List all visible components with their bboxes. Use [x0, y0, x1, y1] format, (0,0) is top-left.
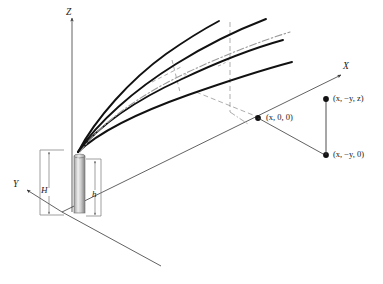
point-label-x00: (x, 0, 0)	[266, 113, 293, 122]
x-axis-line	[62, 75, 341, 212]
x-axis-label: X	[343, 62, 349, 72]
dash-drop-to-x00	[196, 92, 258, 117]
rod-top-cap	[74, 154, 85, 158]
connector-x00-to-xny0	[258, 118, 325, 155]
dash-dot-center-axis	[80, 32, 290, 152]
axis-group	[27, 18, 341, 266]
ground-plane-extension	[62, 212, 161, 266]
bracket-h	[86, 159, 101, 216]
point-markers	[255, 96, 329, 158]
y-axis-label: Y	[13, 180, 18, 190]
ray-3	[78, 40, 283, 152]
dimension-brackets	[40, 150, 101, 216]
figure-root: Z X Y H h (x, 0, 0) (x, −y, z) (x, −y, 0…	[0, 0, 383, 284]
dimension-label-h: h	[92, 190, 97, 199]
antenna-rod	[74, 154, 85, 213]
dashed-construction	[152, 22, 258, 124]
point-xnyz-dot	[323, 96, 329, 102]
rod-body	[74, 156, 85, 213]
ray-1	[78, 21, 219, 152]
diagram-canvas	[0, 0, 383, 284]
point-label-xnyz: (x, −y, z)	[333, 94, 364, 103]
z-axis-label: Z	[66, 8, 71, 18]
point-label-xny0: (x, −y, 0)	[333, 150, 364, 159]
radiated-ray-fan	[78, 19, 292, 152]
dimension-label-H: H	[41, 186, 48, 195]
